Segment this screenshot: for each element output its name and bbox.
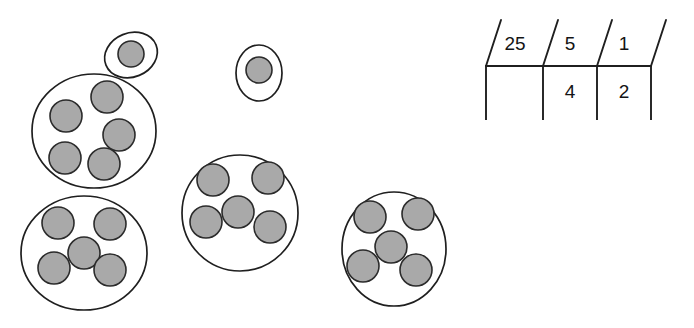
- unit-dot: [94, 208, 126, 240]
- chart-header-slash: [543, 20, 558, 66]
- unit-dot: [375, 231, 407, 263]
- unit-dot: [49, 142, 81, 174]
- unit-dot: [94, 254, 126, 286]
- unit-dot: [50, 100, 82, 132]
- chart-place-value-label: 5: [565, 33, 576, 54]
- chart-header-slash: [486, 20, 501, 66]
- chart-digit-label: 2: [619, 81, 630, 102]
- unit-dot: [42, 207, 74, 239]
- unit-dot: [252, 162, 284, 194]
- unit-dot: [347, 250, 379, 282]
- unit-dot: [103, 119, 135, 151]
- unit-dot: [118, 41, 144, 67]
- unit-dot: [400, 254, 432, 286]
- dot-group: [236, 45, 282, 101]
- unit-dot: [402, 198, 434, 230]
- chart-header-slash: [651, 20, 666, 66]
- unit-dot: [38, 252, 70, 284]
- unit-dot: [254, 211, 286, 243]
- unit-dot: [354, 201, 386, 233]
- chart-header-slash: [597, 20, 612, 66]
- figure-root: 2551 42: [0, 0, 694, 328]
- dot-group: [182, 155, 298, 271]
- chart-place-value-label: 1: [619, 33, 630, 54]
- dot-groups-layer: [21, 24, 446, 310]
- unit-dot: [190, 206, 222, 238]
- unit-dot: [91, 81, 123, 113]
- unit-dot: [222, 196, 254, 228]
- unit-dot: [246, 57, 272, 83]
- dot-group: [342, 192, 446, 306]
- chart-digit-label: 4: [565, 81, 576, 102]
- dot-group: [32, 74, 156, 188]
- diagram-canvas: 2551 42: [0, 0, 694, 328]
- chart-place-value-label: 25: [504, 33, 525, 54]
- chart-header-labels: 2551: [504, 33, 629, 54]
- place-value-chart: 2551 42: [486, 20, 666, 119]
- unit-dot: [88, 148, 120, 180]
- dot-group: [21, 196, 147, 310]
- unit-dot: [197, 164, 229, 196]
